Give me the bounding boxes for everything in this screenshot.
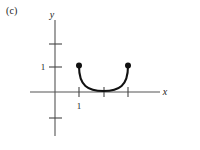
y-tick-label-1: 1 — [41, 62, 46, 72]
curve-endpoint-left — [76, 63, 82, 69]
x-axis-label: x — [162, 86, 168, 97]
plot-area: y x 1 1 — [0, 0, 200, 150]
figure-container: (c) y x 1 1 — [0, 0, 200, 150]
x-tick-label-1: 1 — [77, 101, 82, 111]
curve-endpoint-right — [125, 63, 131, 69]
y-axis-label: y — [49, 9, 55, 20]
